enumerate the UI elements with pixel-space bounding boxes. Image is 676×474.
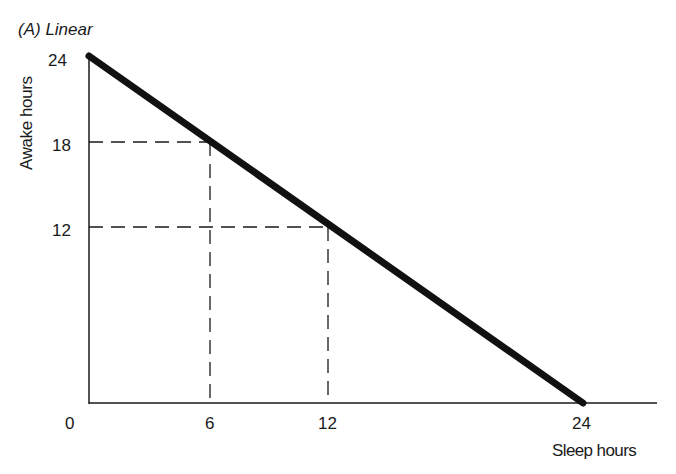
reference-guides <box>89 142 328 403</box>
y-tick-12: 12 <box>52 221 71 240</box>
x-tick-24: 24 <box>572 414 591 433</box>
y-axis-label: Awake hours <box>17 76 36 170</box>
linear-chart: (A) Linear 24 18 12 0 6 12 24 Sleep hour… <box>0 0 676 474</box>
y-tick-24: 24 <box>48 51 67 70</box>
x-tick-12: 12 <box>318 414 337 433</box>
x-tick-0: 0 <box>65 414 74 433</box>
x-axis-label: Sleep hours <box>552 441 636 460</box>
y-tick-18: 18 <box>52 136 71 155</box>
x-tick-6: 6 <box>205 414 214 433</box>
data-line <box>89 56 583 403</box>
chart-title: (A) Linear <box>18 20 94 39</box>
